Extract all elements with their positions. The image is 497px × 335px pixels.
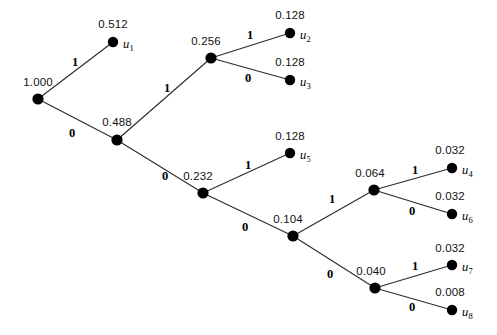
tree-edge (203, 193, 293, 236)
internal-node (197, 187, 208, 198)
tree-edge (117, 58, 211, 140)
tree-edge (38, 42, 113, 99)
tree-edge (375, 265, 452, 288)
tree-edge (211, 58, 290, 80)
tree-edge (38, 99, 117, 140)
edge-group (38, 33, 452, 310)
tree-edge (203, 153, 290, 193)
leaf-node (108, 37, 118, 47)
internal-node (369, 282, 380, 293)
tree-edge (293, 236, 375, 288)
internal-node (287, 230, 298, 241)
tree-edge (374, 168, 452, 190)
leaf-node (447, 209, 457, 219)
leaf-node (447, 305, 457, 315)
tree-graphics (0, 0, 497, 335)
internal-node (205, 52, 216, 63)
tree-edge (211, 33, 290, 58)
leaf-node (285, 28, 295, 38)
leaf-node (447, 260, 457, 270)
internal-node (368, 184, 379, 195)
leaf-node (447, 163, 457, 173)
tree-edge (374, 190, 452, 214)
internal-node (32, 93, 43, 104)
tree-edge (293, 190, 374, 236)
tree-edge (375, 288, 452, 310)
internal-node (111, 134, 122, 145)
leaf-node (285, 75, 295, 85)
code-tree-figure: 1.0000.5120.4880.2560.1280.1280.2320.128… (0, 0, 497, 335)
node-group (32, 28, 457, 315)
tree-edge (117, 140, 203, 193)
leaf-node (285, 148, 295, 158)
